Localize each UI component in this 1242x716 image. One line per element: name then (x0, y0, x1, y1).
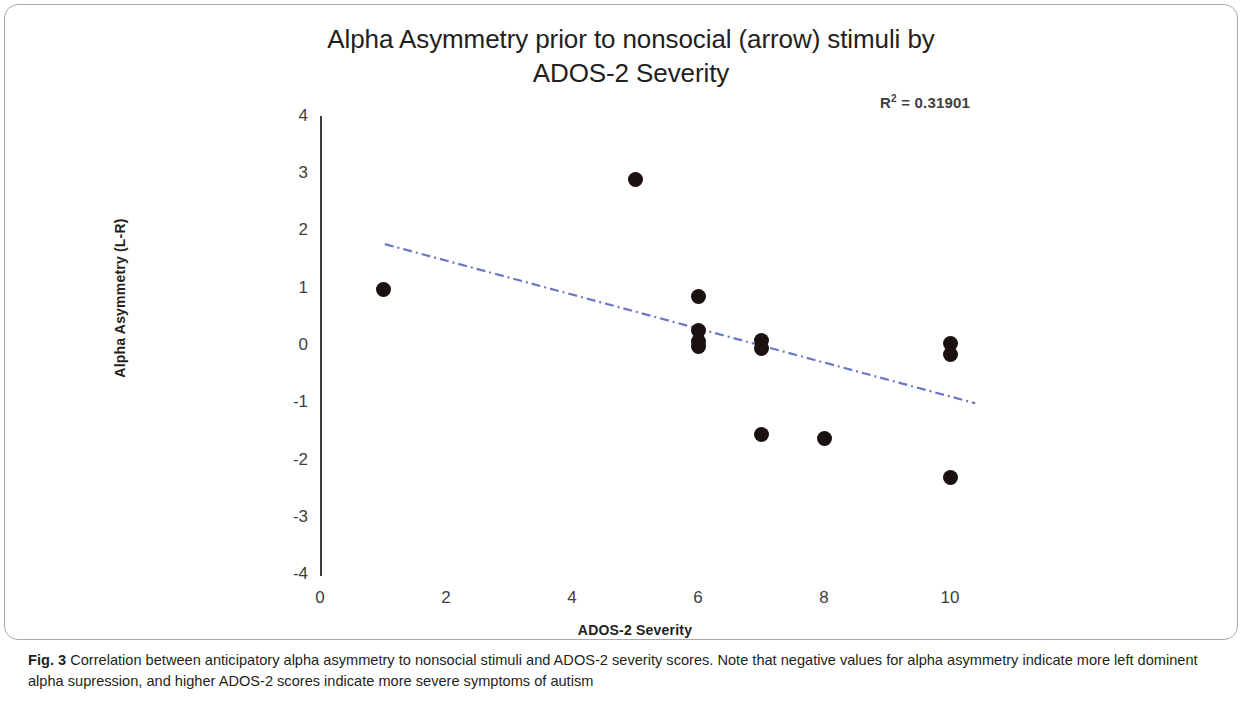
figure-container: Alpha Asymmetry prior to nonsocial (arro… (0, 0, 1242, 716)
figure-caption: Fig. 3 Correlation between anticipatory … (28, 650, 1218, 692)
figure-number-label: Fig. 3 (28, 652, 66, 668)
data-point (376, 282, 391, 297)
data-point (754, 427, 769, 442)
chart-area: Alpha Asymmetry prior to nonsocial (arro… (0, 0, 1242, 640)
y-axis-tick-2: 2 (258, 220, 308, 240)
y-axis-tick-5: -1 (258, 392, 308, 412)
y-axis-tick-label: 2 (268, 220, 308, 240)
y-axis-tick-3: 1 (258, 278, 308, 298)
x-axis-tick-label: 8 (799, 588, 849, 608)
x-axis-tick-4: 8 (799, 588, 849, 610)
data-point (628, 172, 643, 187)
data-point (691, 289, 706, 304)
y-axis-tick-label: 0 (268, 335, 308, 355)
x-axis-tick-5: 10 (925, 588, 975, 610)
x-axis-tick-0: 0 (295, 588, 345, 610)
y-axis-tick-1: 3 (258, 163, 308, 183)
x-axis-tick-label: 0 (295, 588, 345, 608)
y-axis-line (320, 116, 322, 576)
data-point (943, 347, 958, 362)
x-axis-tick-label: 6 (673, 588, 723, 608)
y-axis-tick-label: -4 (268, 564, 308, 584)
x-axis-title: ADOS-2 Severity (320, 622, 950, 638)
y-axis-title: Alpha Asymmetry (L-R) (112, 148, 128, 448)
y-axis-tick-label: -3 (268, 507, 308, 527)
y-axis-tick-8: -4 (258, 564, 308, 584)
y-axis-tick-label: 4 (268, 106, 308, 126)
y-axis-tick-7: -3 (258, 507, 308, 527)
trendline (0, 0, 1242, 640)
y-axis-tick-4: 0 (258, 335, 308, 355)
y-axis-tick-label: 1 (268, 278, 308, 298)
figure-caption-text: Correlation between anticipatory alpha a… (28, 652, 1198, 689)
plot-region: 43210-1-2-3-4 0246810 Alpha Asymmetry (L… (0, 0, 1242, 640)
y-axis-tick-6: -2 (258, 450, 308, 470)
y-axis-tick-label: -2 (268, 450, 308, 470)
y-axis-tick-label: 3 (268, 163, 308, 183)
x-axis-tick-2: 4 (547, 588, 597, 610)
y-axis-tick-0: 4 (258, 106, 308, 126)
data-point (754, 341, 769, 356)
x-axis-tick-label: 2 (421, 588, 471, 608)
y-axis-tick-label: -1 (268, 392, 308, 412)
data-point (817, 431, 832, 446)
x-axis-tick-1: 2 (421, 588, 471, 610)
x-axis-tick-label: 4 (547, 588, 597, 608)
data-point (691, 339, 706, 354)
x-axis-tick-3: 6 (673, 588, 723, 610)
x-axis-tick-label: 10 (925, 588, 975, 608)
data-point (943, 470, 958, 485)
